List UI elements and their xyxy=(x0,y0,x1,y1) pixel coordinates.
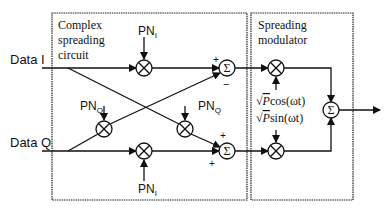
multiplier-left-mid-icon xyxy=(96,121,112,137)
data-q-label: Data Q xyxy=(10,135,51,150)
pn-q-right-label: PNQ xyxy=(198,99,221,115)
sin-carrier-label: √Psin(ωt) xyxy=(256,111,303,125)
complex-spreading-diagram: Complex spreading circuit Spreading modu… xyxy=(0,0,386,212)
sum-top-symbol: Σ xyxy=(224,61,231,75)
pn-q-left-label: PNQ xyxy=(80,99,103,115)
modulator-box-label: Spreading modulator xyxy=(258,18,310,47)
sign-top-minus: − xyxy=(223,78,229,90)
cos-carrier-label: √Pcos(ωt) xyxy=(256,94,305,108)
sum-final-symbol: Σ xyxy=(328,103,335,117)
multiplier-top-icon xyxy=(136,60,152,76)
pn-i-top-label: PNI xyxy=(138,24,157,40)
sign-bottom-plus-upper: + xyxy=(220,130,226,141)
sign-bottom-plus-lower: + xyxy=(209,158,215,169)
sign-top-plus: + xyxy=(213,54,219,65)
complex-box-label: Complex spreading circuit xyxy=(58,18,108,62)
multiplier-sin-icon xyxy=(268,143,284,159)
pn-i-bottom-label: PNI xyxy=(138,182,157,198)
data-i-label: Data I xyxy=(10,52,45,67)
multiplier-right-mid-icon xyxy=(177,121,193,137)
multiplier-bottom-icon xyxy=(136,143,152,159)
sum-bottom-symbol: Σ xyxy=(224,144,231,158)
multiplier-cos-icon xyxy=(268,60,284,76)
